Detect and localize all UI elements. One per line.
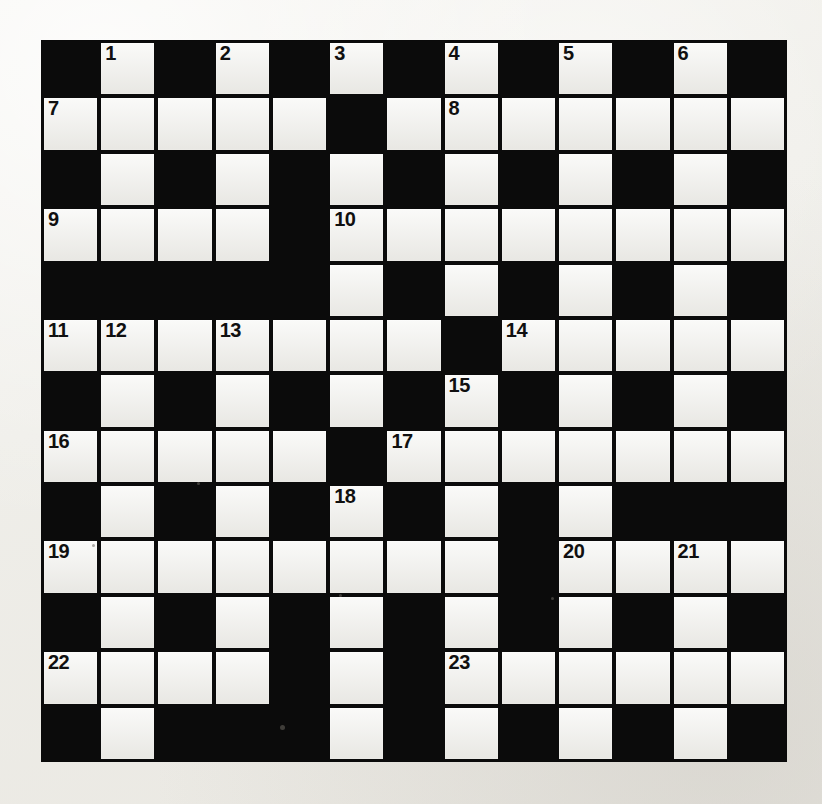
grid-cell-open[interactable] [99, 429, 156, 484]
grid-cell-open[interactable] [156, 650, 213, 705]
grid-cell-open[interactable]: 22 [42, 650, 99, 705]
grid-cell-open[interactable]: 2 [214, 41, 271, 96]
grid-cell-open[interactable] [443, 207, 500, 262]
grid-cell-open[interactable] [614, 96, 671, 151]
grid-cell-open[interactable] [99, 207, 156, 262]
grid-cell-open[interactable] [672, 318, 729, 373]
grid-cell-open[interactable] [729, 539, 786, 594]
grid-cell-open[interactable] [214, 595, 271, 650]
grid-cell-open[interactable] [557, 429, 614, 484]
grid-cell-open[interactable] [214, 152, 271, 207]
grid-cell-open[interactable]: 9 [42, 207, 99, 262]
crossword-grid[interactable]: 1234567891011121314151617181920212223 [42, 41, 786, 761]
grid-cell-open[interactable] [557, 373, 614, 428]
grid-cell-open[interactable]: 10 [328, 207, 385, 262]
grid-cell-open[interactable] [328, 650, 385, 705]
grid-cell-open[interactable] [500, 650, 557, 705]
grid-cell-open[interactable] [156, 207, 213, 262]
grid-cell-open[interactable] [443, 706, 500, 761]
grid-cell-open[interactable] [557, 263, 614, 318]
grid-cell-open[interactable] [214, 484, 271, 539]
grid-cell-open[interactable] [271, 429, 328, 484]
grid-cell-open[interactable] [557, 595, 614, 650]
grid-cell-open[interactable] [271, 96, 328, 151]
grid-cell-open[interactable] [729, 318, 786, 373]
grid-cell-open[interactable] [672, 706, 729, 761]
grid-cell-open[interactable] [729, 429, 786, 484]
grid-cell-open[interactable]: 16 [42, 429, 99, 484]
grid-cell-open[interactable] [443, 263, 500, 318]
grid-cell-open[interactable] [214, 207, 271, 262]
grid-cell-open[interactable] [443, 595, 500, 650]
grid-cell-open[interactable] [443, 152, 500, 207]
grid-cell-open[interactable] [557, 207, 614, 262]
grid-cell-open[interactable]: 12 [99, 318, 156, 373]
grid-cell-open[interactable] [557, 96, 614, 151]
grid-cell-open[interactable] [672, 595, 729, 650]
grid-cell-open[interactable] [672, 373, 729, 428]
grid-cell-open[interactable] [672, 650, 729, 705]
grid-cell-open[interactable] [99, 152, 156, 207]
grid-cell-open[interactable] [328, 152, 385, 207]
grid-cell-open[interactable] [385, 539, 442, 594]
grid-cell-open[interactable] [99, 96, 156, 151]
grid-cell-open[interactable]: 11 [42, 318, 99, 373]
grid-cell-open[interactable]: 3 [328, 41, 385, 96]
grid-cell-open[interactable] [614, 429, 671, 484]
grid-cell-open[interactable]: 6 [672, 41, 729, 96]
grid-cell-open[interactable] [385, 96, 442, 151]
grid-cell-open[interactable] [729, 96, 786, 151]
grid-cell-open[interactable] [328, 373, 385, 428]
grid-cell-open[interactable] [271, 539, 328, 594]
grid-cell-open[interactable] [557, 318, 614, 373]
grid-cell-open[interactable] [328, 318, 385, 373]
grid-cell-open[interactable] [385, 318, 442, 373]
grid-cell-open[interactable] [672, 96, 729, 151]
grid-cell-open[interactable] [500, 207, 557, 262]
grid-cell-open[interactable]: 4 [443, 41, 500, 96]
grid-cell-open[interactable] [156, 429, 213, 484]
grid-cell-open[interactable]: 13 [214, 318, 271, 373]
grid-cell-open[interactable] [328, 539, 385, 594]
grid-cell-open[interactable] [385, 207, 442, 262]
grid-cell-open[interactable] [271, 318, 328, 373]
grid-cell-open[interactable] [99, 484, 156, 539]
grid-cell-open[interactable] [557, 152, 614, 207]
grid-cell-open[interactable] [614, 650, 671, 705]
grid-cell-open[interactable]: 8 [443, 96, 500, 151]
grid-cell-open[interactable] [557, 650, 614, 705]
grid-cell-open[interactable] [443, 539, 500, 594]
grid-cell-open[interactable]: 1 [99, 41, 156, 96]
grid-cell-open[interactable] [214, 650, 271, 705]
grid-cell-open[interactable] [214, 429, 271, 484]
grid-cell-open[interactable]: 7 [42, 96, 99, 151]
grid-cell-open[interactable] [214, 539, 271, 594]
grid-cell-open[interactable] [557, 484, 614, 539]
grid-cell-open[interactable] [729, 650, 786, 705]
grid-cell-open[interactable] [328, 595, 385, 650]
grid-cell-open[interactable] [328, 706, 385, 761]
grid-cell-open[interactable]: 20 [557, 539, 614, 594]
grid-cell-open[interactable] [214, 373, 271, 428]
grid-cell-open[interactable]: 19 [42, 539, 99, 594]
grid-cell-open[interactable] [672, 429, 729, 484]
grid-cell-open[interactable]: 21 [672, 539, 729, 594]
grid-cell-open[interactable] [156, 539, 213, 594]
grid-cell-open[interactable] [328, 263, 385, 318]
grid-cell-open[interactable] [99, 595, 156, 650]
grid-cell-open[interactable] [99, 706, 156, 761]
grid-cell-open[interactable] [614, 207, 671, 262]
grid-cell-open[interactable] [99, 539, 156, 594]
grid-cell-open[interactable] [500, 429, 557, 484]
grid-cell-open[interactable]: 18 [328, 484, 385, 539]
grid-cell-open[interactable] [156, 318, 213, 373]
grid-cell-open[interactable]: 14 [500, 318, 557, 373]
grid-cell-open[interactable] [156, 96, 213, 151]
grid-cell-open[interactable]: 17 [385, 429, 442, 484]
grid-cell-open[interactable] [672, 152, 729, 207]
grid-cell-open[interactable] [614, 539, 671, 594]
grid-cell-open[interactable] [557, 706, 614, 761]
grid-cell-open[interactable] [214, 96, 271, 151]
grid-cell-open[interactable] [729, 207, 786, 262]
grid-cell-open[interactable] [443, 429, 500, 484]
